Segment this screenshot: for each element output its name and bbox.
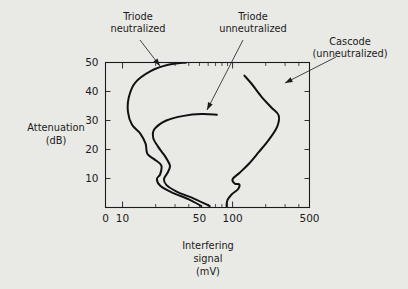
annotation-label-line-1: Triode [237, 11, 268, 22]
x-tick-label-100: 100 [223, 212, 243, 224]
annotation-label-line-2: (unneutralized) [312, 48, 387, 59]
y-tick-label-20: 20 [85, 143, 98, 155]
annotation-label-line-2: neutralized [110, 23, 165, 34]
x-tick-label-50: 50 [193, 212, 206, 224]
x-axis-title-line-2: signal [194, 253, 223, 264]
chart-figure: 102030405001050100500 TriodeneutralizedT… [0, 0, 408, 289]
y-axis-title-line-1: Attenuation [27, 122, 84, 133]
annotation-label-line-1: Triode [122, 11, 153, 22]
y-tick-label-30: 30 [85, 114, 98, 126]
annotation-label-line-2: unneutralized [219, 23, 287, 34]
y-tick-label-10: 10 [85, 172, 98, 184]
x-tick-label-500: 500 [299, 212, 319, 224]
x-tick-label-0: 0 [102, 212, 109, 224]
attenuation-vs-interfering-signal-chart: 102030405001050100500 TriodeneutralizedT… [0, 0, 408, 289]
y-tick-label-50: 50 [85, 56, 98, 68]
x-axis-title-line-1: Interfering [182, 240, 234, 251]
y-tick-label-40: 40 [85, 85, 98, 97]
y-axis-title-line-2: (dB) [46, 135, 67, 146]
annotation-label-line-1: Cascode [329, 36, 371, 47]
x-tick-label-10: 10 [116, 212, 129, 224]
x-axis-title-line-3: (mV) [196, 266, 220, 277]
